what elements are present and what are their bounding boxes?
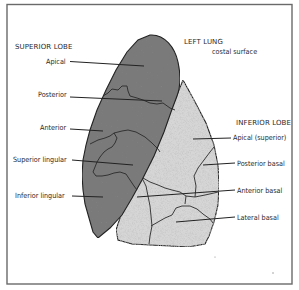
diagram-subtitle: costal surface <box>212 47 257 56</box>
label-posterior-basal: Posterior basal <box>237 159 285 168</box>
label-apical-superior: Apical (superior) <box>233 133 286 142</box>
speck <box>214 256 215 257</box>
superior-lobe-heading: SUPERIOR LOBE <box>15 43 72 51</box>
inferior-lobe-heading: INFERIOR LOBE <box>236 119 291 127</box>
label-posterior: Posterior <box>38 90 67 99</box>
label-lateral-basal: Lateral basal <box>237 213 279 222</box>
label-inferior-lingular: Inferior lingular <box>15 191 65 200</box>
label-apical: Apical <box>46 57 66 66</box>
label-anterior-basal: Anterior basal <box>237 186 283 195</box>
label-anterior: Anterior <box>40 123 66 132</box>
speck <box>272 272 273 273</box>
left-lung-diagram: SUPERIOR LOBE Apical Posterior Anterior … <box>0 0 299 290</box>
diagram-title: LEFT LUNG <box>184 38 223 46</box>
label-superior-lingular: Superior lingular <box>13 155 67 164</box>
